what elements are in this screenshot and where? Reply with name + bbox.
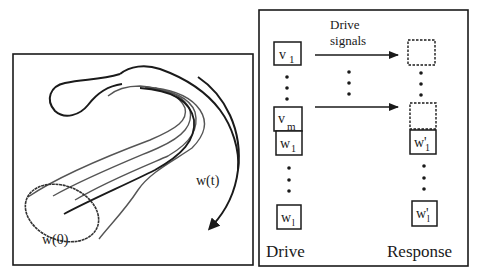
drive-box-w1-sub: 1	[291, 143, 296, 154]
right-panel: Drive signals v 1 v m w 1 w l	[259, 10, 468, 266]
ellipsis-dot	[285, 75, 289, 79]
diagram-canvas: w(t) w(0) Drive signals v 1 v m w 1	[0, 0, 479, 280]
left-panel: w(t) w(0)	[13, 54, 253, 265]
response-box-wlprime-sub: l	[427, 213, 430, 224]
drive-signals-label-line2: signals	[330, 33, 366, 48]
drive-box-vm-base: v	[278, 111, 285, 126]
response-column-label: Response	[387, 242, 452, 261]
response-box-w1prime-sub: 1	[425, 142, 430, 153]
drive-box-vm-sub: m	[287, 120, 296, 132]
attractor-envelope-lobe	[50, 74, 122, 116]
drive-column-label: Drive	[266, 242, 305, 261]
trajectory-line	[53, 87, 191, 196]
trajectory-label: w(t)	[196, 173, 220, 189]
drive-box-w1: w 1	[276, 131, 302, 155]
ellipsis-dot	[419, 82, 423, 86]
response-box-wlprime: w' l	[412, 201, 437, 226]
ellipsis-dot	[422, 187, 426, 191]
drive-box-vm: v m	[274, 107, 302, 132]
response-placeholder-box	[410, 103, 436, 129]
trajectory-line	[28, 86, 186, 197]
drive-box-w1-base: w	[280, 136, 291, 151]
drive-box-v1-base: v	[279, 47, 286, 62]
ellipsis-dot	[347, 81, 351, 85]
drive-box-wl-base: w	[281, 210, 292, 225]
response-box-w1prime: w' 1	[410, 130, 436, 154]
drive-box-wl-sub: l	[292, 217, 295, 228]
ellipsis-dot	[287, 178, 291, 182]
ellipsis-dot	[347, 70, 351, 74]
ellipsis-dot	[419, 71, 423, 75]
ellipsis-dot	[419, 93, 423, 97]
ellipsis-dot	[422, 176, 426, 180]
drive-box-v1-sub: 1	[289, 53, 295, 65]
time-evolution-arrow	[198, 77, 239, 226]
trajectory-line	[75, 88, 196, 200]
ellipsis-dot	[287, 189, 291, 193]
drive-box-v1: v 1	[274, 42, 301, 65]
initial-condition-label: w(0)	[42, 232, 69, 248]
ellipsis-dot	[287, 166, 291, 170]
drive-signals-label-line1: Drive	[330, 17, 360, 32]
ellipsis-dot	[422, 164, 426, 168]
ellipsis-dot	[285, 97, 289, 101]
ellipsis-dot	[347, 92, 351, 96]
drive-box-wl: w l	[277, 205, 301, 229]
response-placeholder-box	[408, 40, 435, 65]
ellipsis-dot	[285, 86, 289, 90]
